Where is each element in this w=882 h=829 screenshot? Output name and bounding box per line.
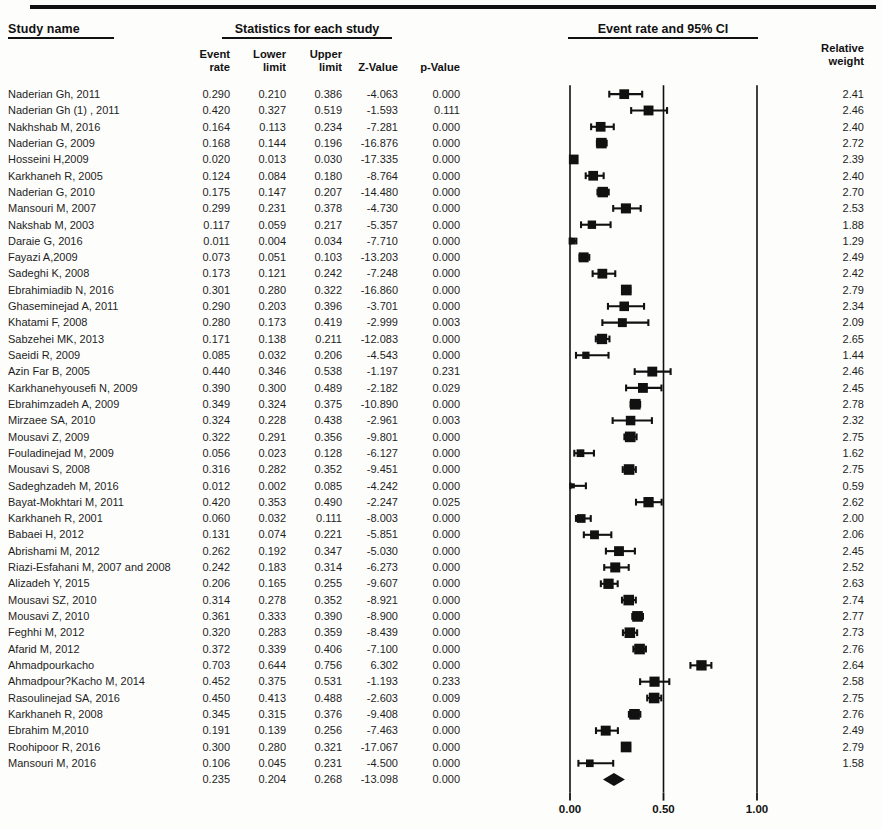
study-name-cell: Khatami F, 2008	[8, 314, 88, 330]
z-value-cell: -4.543	[346, 347, 398, 363]
upper-limit-cell: 0.490	[294, 494, 342, 510]
event-rate-cell: 0.316	[182, 461, 230, 477]
p-value-cell: 0.000	[408, 282, 460, 298]
event-rate-cell: 0.171	[182, 331, 230, 347]
event-rate-cell: 0.168	[182, 135, 230, 151]
table-row: Khatami F, 20080.2800.1730.419-2.9990.00…	[0, 314, 882, 330]
p-value-cell: 0.000	[408, 624, 460, 640]
table-row: Ebrahimiadib N, 20160.3010.2800.322-16.8…	[0, 282, 882, 298]
study-name-cell: Saeidi R, 2009	[8, 347, 80, 363]
relative-weight-cell: 2.76	[812, 641, 864, 657]
upper-limit-cell: 0.386	[294, 86, 342, 102]
relative-weight-cell: 2.72	[812, 135, 864, 151]
lower-limit-cell: 0.280	[238, 282, 286, 298]
event-rate-cell: 0.235	[182, 771, 230, 787]
relative-weight-cell: 2.58	[812, 673, 864, 689]
lower-limit-cell: 0.173	[238, 314, 286, 330]
lower-limit-cell: 0.278	[238, 592, 286, 608]
study-name-cell: Fayazi A,2009	[8, 249, 78, 265]
event-rate-cell: 0.242	[182, 559, 230, 575]
z-value-cell: -7.248	[346, 265, 398, 281]
p-value-cell: 0.000	[408, 478, 460, 494]
z-value-cell: -13.203	[346, 249, 398, 265]
study-name-cell: Ebrahimzadeh A, 2009	[8, 396, 119, 412]
event-rate-cell: 0.450	[182, 690, 230, 706]
lower-limit-cell: 0.192	[238, 543, 286, 559]
z-value-cell: -6.273	[346, 559, 398, 575]
lower-limit-cell: 0.144	[238, 135, 286, 151]
z-value-cell: -9.408	[346, 706, 398, 722]
study-rows-table: Naderian Gh, 20110.2900.2100.386-4.0630.…	[0, 86, 882, 787]
p-value-cell: 0.000	[408, 331, 460, 347]
lower-limit-cell: 0.165	[238, 575, 286, 591]
event-rate-cell: 0.280	[182, 314, 230, 330]
p-value-cell: 0.000	[408, 657, 460, 673]
z-value-cell: -16.876	[346, 135, 398, 151]
study-name-cell: Naderian Gh, 2011	[8, 86, 100, 102]
z-value-cell: -5.357	[346, 217, 398, 233]
p-value-cell: 0.000	[408, 249, 460, 265]
z-value-cell: -17.067	[346, 739, 398, 755]
study-name-cell: Babaei H, 2012	[8, 526, 84, 542]
z-value-cell: -13.098	[346, 771, 398, 787]
event-rate-cell: 0.299	[182, 200, 230, 216]
upper-limit-cell: 0.378	[294, 200, 342, 216]
z-value-cell: -2.182	[346, 380, 398, 396]
relative-weight-cell: 2.42	[812, 265, 864, 281]
event-rate-cell: 0.349	[182, 396, 230, 412]
event-rate-cell: 0.262	[182, 543, 230, 559]
table-row: Mousavi S, 20080.3160.2820.352-9.4510.00…	[0, 461, 882, 477]
p-value-cell: 0.003	[408, 412, 460, 428]
event-rate-cell: 0.206	[182, 575, 230, 591]
forest-plot-figure: Study name Statistics for each study Eve…	[0, 0, 882, 829]
table-row: Mousavi SZ, 20100.3140.2780.352-8.9210.0…	[0, 592, 882, 608]
p-value-cell: 0.000	[408, 722, 460, 738]
lower-limit-cell: 0.113	[238, 119, 286, 135]
lower-limit-cell: 0.346	[238, 363, 286, 379]
upper-limit-cell: 0.756	[294, 657, 342, 673]
z-value-cell: -10.890	[346, 396, 398, 412]
relative-weight-cell: 2.62	[812, 494, 864, 510]
upper-limit-cell: 0.356	[294, 429, 342, 445]
table-row: Bayat-Mokhtari M, 20110.4200.3530.490-2.…	[0, 494, 882, 510]
event-rate-cell: 0.420	[182, 102, 230, 118]
lower-limit-cell: 0.051	[238, 249, 286, 265]
relative-weight-cell: 2.79	[812, 282, 864, 298]
lower-limit-cell: 0.282	[238, 461, 286, 477]
p-value-cell: 0.000	[408, 151, 460, 167]
upper-limit-cell: 0.206	[294, 347, 342, 363]
event-rate-cell: 0.060	[182, 510, 230, 526]
relative-weight-cell: 2.40	[812, 168, 864, 184]
z-value-cell: -8.003	[346, 510, 398, 526]
lower-limit-cell: 0.032	[238, 510, 286, 526]
event-rate-cell: 0.173	[182, 265, 230, 281]
relative-weight-cell: 2.39	[812, 151, 864, 167]
lower-limit-cell: 0.004	[238, 233, 286, 249]
p-value-cell: 0.000	[408, 86, 460, 102]
relative-weight-cell: 2.52	[812, 559, 864, 575]
lower-limit-cell: 0.203	[238, 298, 286, 314]
z-value-cell: -8.900	[346, 608, 398, 624]
z-value-cell: -3.701	[346, 298, 398, 314]
event-rate-cell: 0.290	[182, 298, 230, 314]
table-row: Sadeghi K, 20080.1730.1210.242-7.2480.00…	[0, 265, 882, 281]
lower-limit-cell: 0.204	[238, 771, 286, 787]
z-value-cell: -8.439	[346, 624, 398, 640]
relative-weight-cell: 2.64	[812, 657, 864, 673]
relative-weight-cell: 2.53	[812, 200, 864, 216]
relative-weight-cell: 2.49	[812, 249, 864, 265]
upper-limit-cell: 0.256	[294, 722, 342, 738]
relative-weight-cell: 2.79	[812, 739, 864, 755]
relative-weight-cell: 2.75	[812, 690, 864, 706]
study-name-cell: Afarid M, 2012	[8, 641, 80, 657]
upper-limit-cell: 0.242	[294, 265, 342, 281]
upper-limit-cell: 0.207	[294, 184, 342, 200]
p-value-cell: 0.009	[408, 690, 460, 706]
relative-weight-cell: 2.32	[812, 412, 864, 428]
upper-limit-cell: 0.234	[294, 119, 342, 135]
relative-weight-cell: 2.63	[812, 575, 864, 591]
table-row: Rasoulinejad SA, 20160.4500.4130.488-2.6…	[0, 690, 882, 706]
z-value-cell: -7.463	[346, 722, 398, 738]
table-row: Karkhaneh R, 20080.3450.3150.376-9.4080.…	[0, 706, 882, 722]
p-value-cell: 0.000	[408, 771, 460, 787]
